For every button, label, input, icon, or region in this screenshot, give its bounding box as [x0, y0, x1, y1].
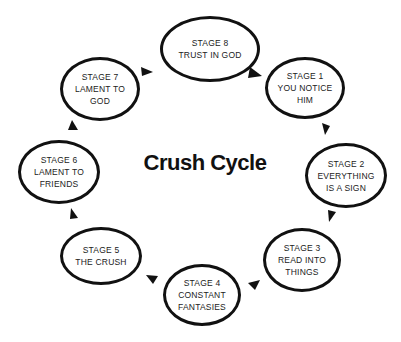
stage-7-line-2: LAMENT TO: [75, 83, 125, 95]
arrow-4-to-5-icon: [146, 275, 158, 284]
arrow-2-to-3-icon: [328, 210, 336, 222]
stage-5-line-1: STAGE 5: [83, 244, 120, 256]
stage-5-line-2: THE CRUSH: [75, 256, 126, 268]
stage-7-line-1: STAGE 7: [82, 71, 119, 83]
arrow-6-to-7-icon: [68, 120, 78, 130]
stage-7-line-3: GOD: [90, 95, 110, 107]
diagram-title: Crush Cycle: [135, 150, 275, 176]
stage-8-line-1: STAGE 8: [192, 37, 229, 49]
stage-6-node: STAGE 6 LAMENT TO FRIENDS: [18, 140, 100, 204]
stage-1-line-2: YOU NOTICE: [278, 82, 333, 94]
stage-1-line-1: STAGE 1: [287, 70, 324, 82]
stage-4-line-3: FANTASIES: [178, 301, 226, 313]
stage-2-line-3: IS A SIGN: [326, 182, 366, 194]
stage-5-node: STAGE 5 THE CRUSH: [60, 227, 142, 285]
arrow-3-to-4-icon: [248, 280, 260, 290]
stage-7-node: STAGE 7 LAMENT TO GOD: [60, 57, 140, 121]
stage-2-line-2: EVERYTHING: [317, 170, 374, 182]
stage-4-node: STAGE 4 CONSTANT FANTASIES: [163, 264, 241, 326]
stage-3-line-3: THINGS: [285, 266, 318, 278]
stage-3-node: STAGE 3 READ INTO THINGS: [263, 228, 341, 292]
stage-4-line-2: CONSTANT: [178, 289, 226, 301]
stage-2-node: STAGE 2 EVERYTHING IS A SIGN: [305, 143, 387, 208]
arrow-5-to-6-icon: [70, 208, 78, 219]
arrow-1-to-2-icon: [322, 123, 330, 135]
arrow-7-to-8-icon: [141, 67, 153, 76]
stage-8-line-2: TRUST IN GOD: [178, 49, 241, 61]
stage-2-line-1: STAGE 2: [328, 158, 365, 170]
stage-6-line-3: FRIENDS: [40, 178, 79, 190]
stage-8-node: STAGE 8 TRUST IN GOD: [160, 16, 260, 82]
stage-3-line-1: STAGE 3: [284, 242, 321, 254]
stage-1-line-3: HIM: [297, 94, 313, 106]
stage-6-line-1: STAGE 6: [41, 154, 78, 166]
stage-4-line-1: STAGE 4: [184, 277, 221, 289]
stage-3-line-2: READ INTO: [278, 254, 326, 266]
stage-6-line-2: LAMENT TO: [34, 166, 84, 178]
stage-1-node: STAGE 1 YOU NOTICE HIM: [265, 57, 345, 119]
